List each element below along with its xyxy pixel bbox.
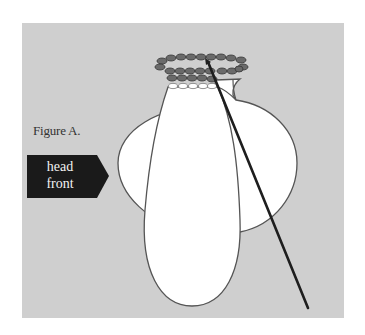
tag-label: head front — [27, 158, 93, 192]
tag-line-2: front — [27, 175, 93, 192]
stitch-row-middle — [165, 66, 243, 74]
figure-label: Figure A. — [33, 123, 80, 139]
stitch-row-lower — [167, 75, 217, 82]
stitch-row-open — [169, 83, 217, 88]
head-front-shape — [144, 87, 240, 306]
stitch-row-top — [155, 54, 248, 70]
tag-line-1: head — [27, 158, 93, 175]
